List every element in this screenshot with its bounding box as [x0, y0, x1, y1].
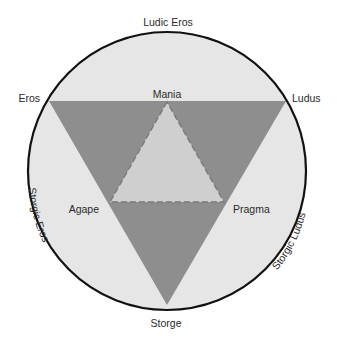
label-pragma: Pragma [233, 203, 270, 215]
label-mania: Mania [153, 88, 182, 100]
love-styles-diagram: Ludic Eros Eros Mania Ludus Agape Pragma… [0, 0, 337, 341]
label-ludic-eros: Ludic Eros [143, 16, 193, 28]
label-ludus: Ludus [292, 92, 321, 104]
label-storge: Storge [151, 317, 182, 329]
label-eros: Eros [18, 92, 40, 104]
label-agape: Agape [69, 203, 100, 215]
